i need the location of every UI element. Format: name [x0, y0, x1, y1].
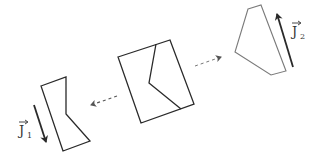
left-piece	[34, 77, 90, 151]
diagram-canvas: J 1 J 2	[0, 0, 322, 163]
j2-main-text: J	[290, 24, 297, 39]
j1-label: J 1	[17, 120, 32, 140]
dashed-arrow-left	[91, 96, 117, 105]
central-piece	[118, 40, 194, 123]
central-outline	[118, 40, 194, 123]
central-cut-line	[149, 44, 181, 109]
j1-subscript: 1	[27, 131, 32, 140]
left-outline	[41, 77, 90, 151]
j2-vector-arrow	[277, 14, 293, 67]
dashed-arrow-right	[195, 57, 221, 66]
j1-main-text: J	[17, 123, 24, 138]
j2-label: J 2	[290, 21, 305, 41]
right-piece	[235, 5, 293, 75]
j1-vector-arrow	[34, 105, 46, 142]
j2-subscript: 2	[300, 32, 305, 41]
